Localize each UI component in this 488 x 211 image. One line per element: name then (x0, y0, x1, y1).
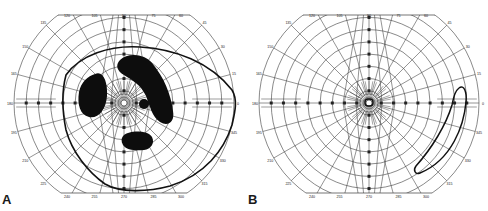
svg-text:0: 0 (482, 102, 484, 106)
svg-text:15: 15 (232, 72, 236, 76)
svg-text:315: 315 (202, 182, 208, 186)
svg-text:15: 15 (477, 72, 481, 76)
svg-text:225: 225 (285, 182, 291, 186)
svg-text:180: 180 (252, 102, 258, 106)
svg-text:30: 30 (221, 45, 225, 49)
svg-text:210: 210 (22, 159, 28, 163)
svg-text:240: 240 (64, 195, 70, 199)
panel-label-a: A (2, 192, 11, 207)
svg-text:195: 195 (11, 131, 17, 135)
svg-text:105: 105 (336, 14, 342, 18)
svg-text:285: 285 (396, 195, 402, 199)
svg-text:165: 165 (256, 72, 262, 76)
svg-text:150: 150 (267, 45, 273, 49)
svg-text:240: 240 (309, 195, 315, 199)
svg-text:270: 270 (366, 195, 372, 199)
svg-text:90: 90 (367, 14, 371, 18)
svg-text:120: 120 (309, 14, 315, 18)
scotoma-small-central (139, 99, 149, 109)
svg-text:285: 285 (151, 195, 157, 199)
svg-text:0: 0 (237, 102, 239, 106)
svg-text:195: 195 (256, 131, 262, 135)
svg-text:345: 345 (231, 131, 237, 135)
svg-text:150: 150 (22, 45, 28, 49)
svg-text:75: 75 (152, 14, 156, 18)
temporal-crescent-b (415, 87, 467, 174)
svg-text:255: 255 (336, 195, 342, 199)
svg-text:60: 60 (179, 14, 183, 18)
svg-text:105: 105 (91, 14, 97, 18)
svg-text:75: 75 (397, 14, 401, 18)
svg-text:300: 300 (178, 195, 184, 199)
svg-text:345: 345 (476, 131, 482, 135)
svg-text:180: 180 (7, 102, 13, 106)
visual-field-chart-b: 0153045607590105120135150165180195210225… (252, 0, 484, 211)
svg-text:135: 135 (40, 21, 46, 25)
visual-field-figure: 0153045607590105120135150165180195210225… (0, 0, 488, 211)
svg-text:315: 315 (447, 182, 453, 186)
svg-text:60: 60 (424, 14, 428, 18)
svg-text:45: 45 (203, 21, 207, 25)
visual-field-chart-a: 0153045607590105120135150165180195210225… (7, 0, 239, 211)
svg-text:255: 255 (91, 195, 97, 199)
svg-text:90: 90 (122, 14, 126, 18)
svg-text:270: 270 (121, 195, 127, 199)
svg-text:135: 135 (285, 21, 291, 25)
svg-text:120: 120 (64, 14, 70, 18)
svg-text:45: 45 (448, 21, 452, 25)
svg-text:330: 330 (465, 159, 471, 163)
svg-text:330: 330 (220, 159, 226, 163)
svg-text:300: 300 (423, 195, 429, 199)
svg-text:30: 30 (466, 45, 470, 49)
scotoma-inferior (122, 131, 153, 150)
scotoma-left-paracentral (78, 73, 107, 117)
svg-text:225: 225 (40, 182, 46, 186)
svg-text:165: 165 (11, 72, 17, 76)
svg-text:210: 210 (267, 159, 273, 163)
panel-label-b: B (248, 192, 257, 207)
